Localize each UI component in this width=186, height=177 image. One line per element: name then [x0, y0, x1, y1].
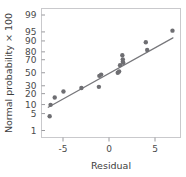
- data-point: [145, 48, 149, 52]
- y-axis-tick-label: 95: [25, 27, 36, 37]
- y-axis: 15102030507080909599: [25, 10, 45, 136]
- y-axis-tick-label: 90: [25, 36, 37, 46]
- x-axis-tick-label: 0: [106, 144, 112, 154]
- y-axis-tick-label: 5: [31, 109, 37, 119]
- y-axis-title: Normal probability × 100: [3, 13, 14, 133]
- plot-canvas: 15102030507080909599-505ResidualNormal p…: [0, 0, 186, 177]
- y-axis-tick-label: 99: [25, 10, 37, 20]
- data-point: [99, 72, 103, 76]
- reference-line: [48, 38, 173, 107]
- data-point: [117, 69, 121, 73]
- data-point: [48, 103, 52, 107]
- data-point: [47, 114, 51, 118]
- x-axis-tick-label: -5: [59, 144, 68, 154]
- x-axis-tick-label: 5: [152, 144, 158, 154]
- data-point: [97, 85, 101, 89]
- y-axis-tick-label: 10: [25, 100, 37, 110]
- data-point: [170, 28, 174, 32]
- data-point: [144, 40, 148, 44]
- data-series-residual-points: [47, 28, 174, 118]
- data-point: [120, 53, 124, 57]
- y-axis-tick-label: 80: [25, 47, 37, 57]
- x-axis: -505: [59, 138, 158, 154]
- normal-probability-plot: 15102030507080909599-505ResidualNormal p…: [0, 0, 186, 177]
- data-point: [118, 63, 122, 67]
- data-point: [53, 95, 57, 99]
- data-point: [79, 86, 83, 90]
- x-axis-title: Residual: [91, 160, 131, 171]
- data-point: [61, 89, 65, 93]
- y-axis-tick-label: 50: [25, 68, 37, 78]
- y-axis-tick-label: 30: [25, 81, 37, 91]
- y-axis-tick-label: 1: [31, 126, 37, 136]
